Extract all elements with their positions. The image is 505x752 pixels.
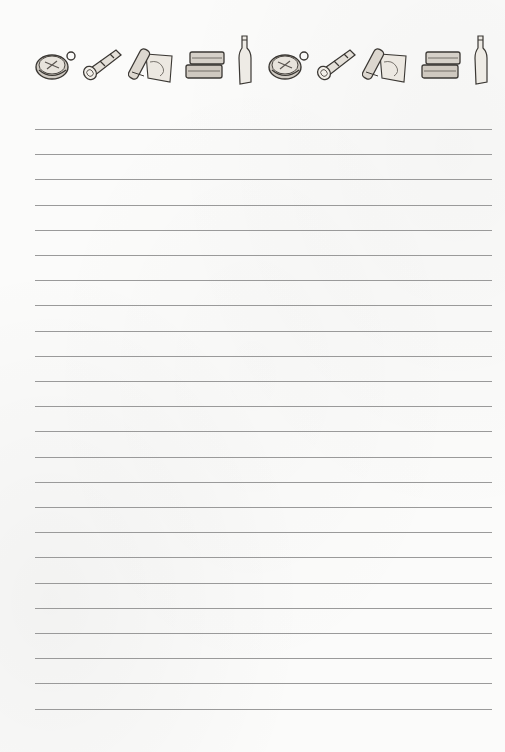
- ruled-line: [35, 532, 492, 533]
- ruled-line: [35, 431, 492, 432]
- ruled-line: [35, 557, 492, 558]
- ruled-line: [35, 129, 492, 130]
- ruled-lines: [35, 0, 492, 752]
- ruled-line: [35, 507, 492, 508]
- ruled-line: [35, 154, 492, 155]
- ruled-line: [35, 482, 492, 483]
- ruled-line: [35, 205, 492, 206]
- ruled-line: [35, 709, 492, 710]
- ruled-line: [35, 683, 492, 684]
- notepaper-page: [0, 0, 505, 752]
- ruled-line: [35, 633, 492, 634]
- ruled-line: [35, 457, 492, 458]
- ruled-line: [35, 331, 492, 332]
- ruled-line: [35, 608, 492, 609]
- ruled-line: [35, 179, 492, 180]
- ruled-line: [35, 305, 492, 306]
- ruled-line: [35, 255, 492, 256]
- ruled-line: [35, 406, 492, 407]
- ruled-line: [35, 381, 492, 382]
- ruled-line: [35, 280, 492, 281]
- ruled-line: [35, 356, 492, 357]
- ruled-line: [35, 658, 492, 659]
- ruled-line: [35, 583, 492, 584]
- ruled-line: [35, 230, 492, 231]
